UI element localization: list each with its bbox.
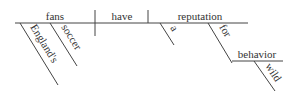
modifier-a: a: [168, 23, 181, 34]
preposition-for: for: [217, 22, 234, 39]
object-word: reputation: [178, 10, 223, 22]
prep-object-behavior: behavior: [238, 48, 277, 60]
modifier-englands: England's: [28, 22, 61, 65]
modifier-soccer: soccer: [59, 22, 84, 52]
modifier-wild: wild: [263, 61, 284, 84]
verb-word: have: [112, 10, 133, 22]
subject-word: fans: [46, 10, 64, 22]
sentence-diagram: fans have reputation England's soccer a …: [0, 0, 296, 97]
